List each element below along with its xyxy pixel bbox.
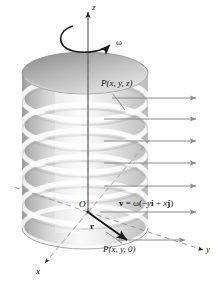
origin-label: O — [79, 200, 86, 209]
z-axis-label: z — [92, 3, 96, 12]
rotating-cylinder-figure: z ω P(x, y, z) O r v = ω(−yi + xj) P(x, … — [0, 0, 221, 285]
point-base-label: P(x, y, 0) — [103, 245, 135, 254]
figure-canvas — [0, 0, 221, 285]
velocity-equation: v = ω(−yi + xj) — [119, 199, 173, 208]
velocity-equation-plus: + — [154, 198, 164, 208]
velocity-equation-eq: = — [124, 198, 134, 208]
rotation-arc — [61, 26, 110, 52]
velocity-equation-omega: ω(− — [133, 198, 147, 208]
point-top-label: P(x, y, z) — [101, 79, 133, 88]
omega-label: ω — [116, 38, 122, 47]
radius-vector-label: r — [90, 222, 94, 231]
origin-point — [87, 211, 90, 214]
velocity-equation-close: ) — [170, 198, 173, 208]
x-axis-label: x — [36, 267, 40, 276]
y-axis-label: y — [206, 245, 210, 254]
